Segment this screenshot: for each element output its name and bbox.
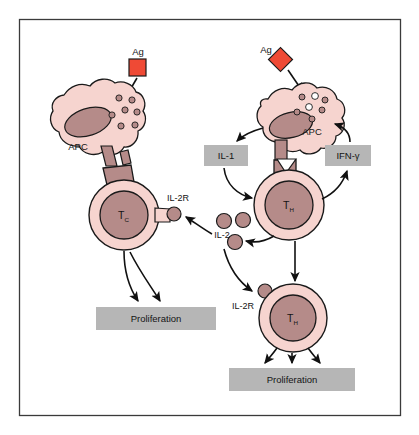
apc-right-vesicle (312, 93, 319, 100)
apc-right-vesicle (299, 94, 305, 100)
apc-right-vesicle (309, 116, 315, 122)
ifn-gamma-label: IFN-γ (336, 150, 359, 161)
il2-molecule (217, 214, 232, 229)
antigen-left-label: Ag (132, 46, 144, 57)
apc-right-vesicle (322, 97, 328, 103)
il2r-th-lower-label: IL-2R (232, 301, 255, 311)
apc-right-label: APC (302, 126, 322, 137)
apc-left-vesicle (134, 109, 140, 115)
il2r-tc-ball (167, 207, 181, 221)
proliferation-right-label: Proliferation (267, 374, 318, 385)
proliferation-left-label: Proliferation (131, 313, 182, 324)
il2-molecule (236, 213, 251, 228)
antigen-right-label: Ag (260, 44, 272, 55)
figure-frame (20, 20, 401, 416)
apc-left-vesicle (122, 107, 128, 113)
apc-right-vesicle (306, 104, 313, 111)
apc-right-vesicle (294, 109, 300, 115)
apc-left-vesicle (129, 97, 135, 103)
il2-label: IL-2 (214, 230, 230, 240)
apc-left-vesicle (109, 112, 115, 118)
apc-left-vesicle (132, 122, 138, 128)
figure-root: Ag APC TC IL-2R (0, 0, 419, 435)
apc-left-label: APC (68, 141, 88, 152)
il1-label: IL-1 (218, 150, 234, 161)
apc-right-vesicle (319, 107, 325, 113)
il2r-tc-label: IL-2R (167, 193, 190, 203)
immunology-diagram: Ag APC TC IL-2R (0, 0, 419, 435)
apc-left-vesicle (116, 95, 122, 101)
apc-left-vesicle (118, 123, 124, 129)
antigen-left-shape (129, 59, 146, 76)
